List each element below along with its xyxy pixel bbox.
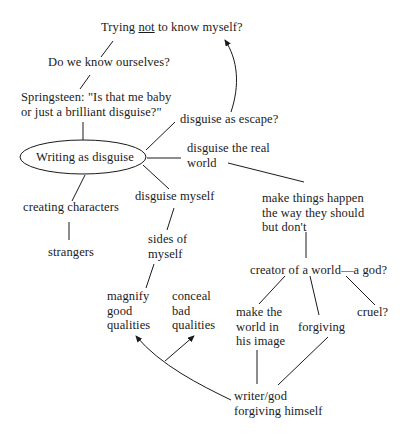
node-sides-of-myself: sides of myself: [148, 232, 187, 261]
node-text: cruel?: [357, 305, 388, 320]
edge-creator-forgiving: [310, 276, 319, 315]
node-strangers: strangers: [48, 245, 94, 260]
node-text: to know myself?: [155, 20, 243, 34]
node-text: forgiving himself: [234, 404, 323, 419]
edge-creator-cruel: [346, 276, 375, 305]
node-creating-characters: creating characters: [23, 200, 119, 215]
node-text: or just a brilliant disguise?": [21, 105, 171, 120]
node-make-things-happen: make things happen the way they should b…: [262, 191, 364, 235]
node-text: qualities: [107, 318, 150, 333]
edge-central-escape: [146, 122, 175, 150]
edge-forgiving-writergod: [278, 337, 328, 385]
central-text: Writing as disguise: [36, 150, 134, 165]
node-text: make things happen: [262, 191, 364, 206]
emphasis-not: not: [138, 20, 154, 34]
node-text: his image: [236, 334, 285, 349]
node-forgiving: forgiving: [298, 320, 345, 335]
node-text: but don't: [262, 220, 364, 235]
node-text: bad: [172, 304, 215, 319]
node-disguise-real-world: disguise the real world: [187, 141, 270, 170]
node-text: myself: [148, 247, 187, 262]
node-text: Do we know ourselves?: [48, 55, 170, 70]
node-text: world: [187, 156, 270, 171]
node-text: creating characters: [23, 200, 119, 215]
node-text: sides of: [148, 232, 187, 247]
node-text: creator of a world—a god?: [250, 263, 387, 278]
node-text: Springsteen: "Is that me baby: [21, 90, 171, 105]
node-text: disguise the real: [187, 141, 270, 156]
edge-creator-image: [259, 276, 285, 304]
node-do-we-know-ourselves: Do we know ourselves?: [48, 55, 170, 70]
node-springsteen-quote: Springsteen: "Is that me baby or just a …: [21, 90, 171, 119]
node-text: good: [107, 304, 150, 319]
node-text: the way they should: [262, 206, 364, 221]
node-text: writer/god: [234, 389, 323, 404]
edge-myself-sides: [167, 208, 174, 230]
node-text: Trying: [101, 20, 138, 34]
edge-writergod-conceal-arrow: [165, 336, 194, 361]
node-text: world in: [236, 320, 285, 335]
node-text: magnify: [107, 289, 150, 304]
edge-central-creating: [72, 175, 85, 201]
edge-escape-trying-arrow: [225, 40, 237, 112]
node-text: qualities: [172, 318, 215, 333]
node-text: disguise as escape?: [180, 112, 278, 127]
edge-springsteen-know: [80, 75, 90, 89]
node-writer-god-forgiving-himself: writer/god forgiving himself: [234, 389, 323, 418]
node-text: forgiving: [298, 320, 345, 335]
node-text: strangers: [48, 245, 94, 260]
edge-central-myself: [143, 165, 169, 189]
node-text: disguise myself: [135, 189, 215, 204]
node-cruel: cruel?: [357, 305, 388, 320]
node-disguise-as-escape: disguise as escape?: [180, 112, 278, 127]
node-central-writing-as-disguise: Writing as disguise: [36, 150, 134, 165]
node-trying-not-to-know: Trying not to know myself?: [101, 20, 243, 35]
edge-sides-magnify: [146, 264, 154, 288]
node-disguise-myself: disguise myself: [135, 189, 215, 204]
node-magnify-good-qualities: magnify good qualities: [107, 289, 150, 333]
node-text: conceal: [172, 289, 215, 304]
node-creator-of-a-world: creator of a world—a god?: [250, 263, 387, 278]
node-text: make the: [236, 305, 285, 320]
node-conceal-bad-qualities: conceal bad qualities: [172, 289, 215, 333]
node-make-world-in-his-image: make the world in his image: [236, 305, 285, 349]
